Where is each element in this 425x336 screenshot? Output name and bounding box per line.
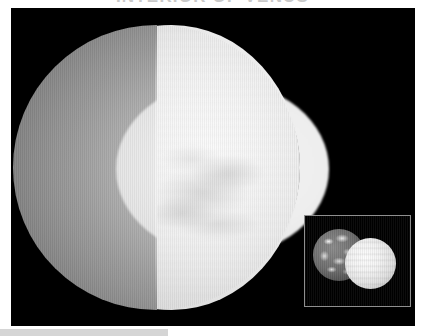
caption-bar xyxy=(0,329,168,336)
venus-cutaway-figure xyxy=(11,8,415,326)
venus-cut-edge-highlight xyxy=(155,29,157,305)
venus-limb-shading xyxy=(157,25,301,310)
venus-cloud-hemisphere xyxy=(157,25,301,310)
page-root: INTERIOR OF VENUS xyxy=(0,0,425,336)
size-comparison-inset xyxy=(304,215,411,307)
page-title-strip: INTERIOR OF VENUS xyxy=(0,0,425,7)
inset-venus-cloud-bands xyxy=(345,238,396,289)
page-title: INTERIOR OF VENUS xyxy=(0,0,425,7)
venus-planet xyxy=(13,25,300,310)
